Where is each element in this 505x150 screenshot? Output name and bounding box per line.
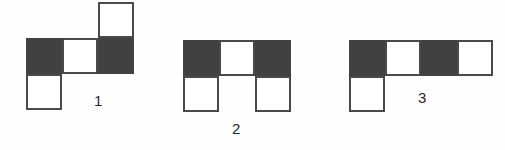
figure-1-cell-mid-right [98,38,134,74]
figure-3-cell-top-4 [457,40,493,76]
figures-canvas: 123 [0,0,505,150]
figure-2-cell-top-left [183,40,219,76]
figure-2-cell-top-right [255,40,291,76]
figure-3-cell-top-3 [421,40,457,76]
figure-3-cell-bottom-1 [349,76,385,112]
figure-1-cell-bottom-left [26,74,62,110]
figure-2-cell-top-center [219,40,255,76]
figure-2 [183,40,291,112]
figure-3-cell-top-1 [349,40,385,76]
figure-1-cell-mid-center [62,38,98,74]
figure-1-label: 1 [94,93,102,108]
figure-1-cell-top-right [98,2,134,38]
figure-2-cell-bottom-right [255,76,291,112]
figure-1 [26,2,134,110]
figure-1-cell-mid-left [26,38,62,74]
figure-2-label: 2 [232,121,240,136]
figure-3-label: 3 [418,90,426,105]
figure-2-cell-bottom-left [183,76,219,112]
figure-3-cell-top-2 [385,40,421,76]
